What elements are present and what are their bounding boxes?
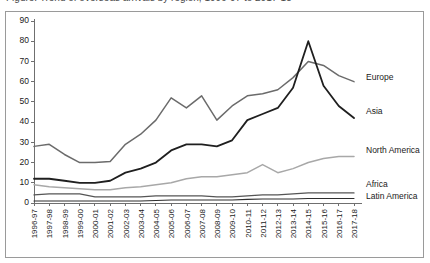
line-chart: 01020304050607080901996-971997-981998-99… <box>6 12 423 257</box>
y-axis-tick-label: 10 <box>20 177 30 187</box>
y-axis-tick-label: 30 <box>20 137 30 147</box>
x-axis-tick-label: 1999-00 <box>76 208 85 238</box>
x-axis-tick-label: 2013-14 <box>289 208 298 238</box>
x-axis-tick-label: 2007-08 <box>198 208 207 238</box>
x-axis-tick-label: 2006-07 <box>183 208 192 238</box>
y-axis-tick-label: 60 <box>20 76 30 86</box>
y-axis-tick-label: 90 <box>20 15 30 25</box>
figure-caption-cropped: Figure: Trend of overseas arrivals by re… <box>0 0 430 9</box>
y-axis-tick-label: 80 <box>20 35 30 45</box>
x-axis-tick-label: 2017-18 <box>350 208 359 238</box>
x-axis-tick-label: 1996-97 <box>30 208 39 238</box>
series-line-europe <box>34 61 354 162</box>
x-axis-tick-label: 1998-99 <box>61 208 70 238</box>
series-label-europe: Europe <box>366 72 394 82</box>
x-axis-tick-label: 2000-01 <box>91 208 100 238</box>
series-line-asia <box>34 41 354 183</box>
y-axis-tick-label: 0 <box>24 197 29 207</box>
series-label-asia: Asia <box>366 106 383 116</box>
chart-frame: 01020304050607080901996-971997-981998-99… <box>5 11 424 258</box>
x-axis-tick-label: 1997-98 <box>45 208 54 238</box>
x-axis-tick-label: 2005-06 <box>167 208 176 238</box>
series-line-latin-america <box>34 199 354 201</box>
series-line-north-america <box>34 156 354 189</box>
x-axis-tick-label: 2001-02 <box>106 208 115 238</box>
x-axis-tick-label: 2011-12 <box>259 208 268 237</box>
series-line-africa <box>34 193 354 197</box>
y-axis-tick-label: 50 <box>20 96 30 106</box>
y-axis-tick-label: 20 <box>20 157 30 167</box>
series-label-africa: Africa <box>366 179 388 189</box>
x-axis-tick-label: 2015-16 <box>320 208 329 238</box>
x-axis-tick-label: 2012-13 <box>274 208 283 238</box>
x-axis-tick-label: 2016-17 <box>335 208 344 238</box>
x-axis-tick-label: 2002-03 <box>122 208 131 238</box>
y-axis-tick-label: 70 <box>20 56 30 66</box>
x-axis-tick-label: 2004-05 <box>152 208 161 238</box>
x-axis-tick-label: 2010-11 <box>244 208 253 237</box>
y-axis-tick-label: 40 <box>20 116 30 126</box>
x-axis-tick-label: 2014-15 <box>304 208 313 238</box>
figure-container: Figure: Trend of overseas arrivals by re… <box>0 0 430 263</box>
x-axis-tick-label: 2008-09 <box>213 208 222 238</box>
series-label-north-america: North America <box>366 145 420 155</box>
x-axis-tick-label: 2003-04 <box>137 208 146 238</box>
x-axis-tick-label: 2009-10 <box>228 208 237 238</box>
figure-caption-text: Figure: Trend of overseas arrivals by re… <box>6 0 292 3</box>
series-label-latin-america: Latin America <box>366 191 418 201</box>
